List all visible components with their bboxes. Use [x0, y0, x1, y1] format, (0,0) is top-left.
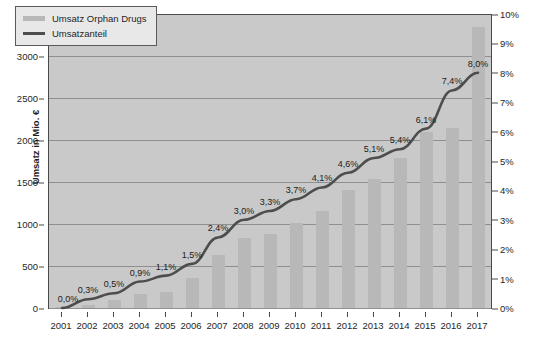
- x-tick-mark: [113, 312, 114, 317]
- tick-mark: [492, 220, 498, 221]
- y-tick-right-10: 10%: [500, 9, 519, 20]
- y-tick-right-2: 2%: [500, 244, 514, 255]
- line-series-umsatzanteil: [49, 14, 491, 308]
- bar-swatch-icon: [23, 16, 45, 21]
- x-tick-label-2002: 2002: [76, 320, 97, 331]
- data-label-2014: 5,4%: [390, 135, 411, 145]
- legend-item-umsatzanteil: Umsatzanteil: [23, 27, 147, 40]
- x-tick-label-2012: 2012: [336, 320, 357, 331]
- x-tick-mark: [165, 312, 166, 317]
- x-tick-label-2014: 2014: [388, 320, 409, 331]
- y-tick-right-0: 0%: [500, 303, 514, 314]
- data-label-2011: 4,1%: [312, 173, 333, 183]
- x-tick-mark: [243, 312, 244, 317]
- x-tick-label-2007: 2007: [206, 320, 227, 331]
- y-tick-right-3: 3%: [500, 214, 514, 225]
- x-tick-label-2004: 2004: [128, 320, 149, 331]
- tick-mark: [492, 249, 498, 250]
- gridline: [49, 308, 491, 309]
- x-tick-label-2010: 2010: [284, 320, 305, 331]
- line-swatch-icon: [23, 32, 45, 34]
- y-tick-left-3000: 3000: [17, 51, 38, 62]
- plot-area: 0,0%0,3%0,5%0,9%1,1%1,5%2,4%3,0%3,3%3,7%…: [48, 14, 492, 309]
- x-tick-mark: [217, 312, 218, 317]
- data-label-2012: 4,6%: [338, 159, 359, 169]
- data-label-2002: 0,3%: [78, 285, 99, 295]
- tick-mark: [39, 182, 44, 183]
- x-tick-label-2011: 2011: [311, 320, 331, 331]
- tick-mark: [492, 132, 498, 133]
- data-label-2010: 3,7%: [286, 185, 307, 195]
- data-label-2007: 2,4%: [208, 223, 229, 233]
- x-tick-label-2005: 2005: [154, 320, 175, 331]
- x-tick-label-2017: 2017: [466, 320, 487, 331]
- x-tick-label-2013: 2013: [362, 320, 383, 331]
- x-tick-label-2016: 2016: [440, 320, 461, 331]
- x-tick-mark: [399, 312, 400, 317]
- data-label-2008: 3,0%: [234, 206, 255, 216]
- legend-item-umsatz-orphan-drugs: Umsatz Orphan Drugs: [23, 12, 147, 25]
- tick-mark: [39, 140, 44, 141]
- data-label-2017: 8,0%: [468, 59, 489, 69]
- y-tick-left-1500: 1500: [17, 177, 38, 188]
- tick-mark: [492, 279, 498, 280]
- x-tick-mark: [321, 312, 322, 317]
- x-tick-label-2015: 2015: [414, 320, 435, 331]
- y-tick-right-1: 1%: [500, 273, 514, 284]
- y-tick-left-2000: 2000: [17, 135, 38, 146]
- legend-item-label: Umsatz Orphan Drugs: [52, 13, 147, 24]
- data-label-2003: 0,5%: [104, 279, 125, 289]
- data-label-2016: 7,4%: [442, 76, 463, 86]
- y-tick-left-500: 500: [22, 261, 38, 272]
- x-tick-mark: [61, 312, 62, 317]
- y-axis-right: 0%1%2%3%4%5%6%7%8%9%10%: [491, 0, 547, 294]
- y-tick-right-9: 9%: [500, 38, 514, 49]
- x-tick-mark: [451, 312, 452, 317]
- legend-item-label: Umsatzanteil: [52, 28, 107, 39]
- tick-mark: [492, 73, 498, 74]
- data-label-2006: 1,5%: [182, 250, 203, 260]
- chart-container: Umsatz in Mio. € Umsatzanteil in % 05001…: [0, 0, 550, 351]
- tick-mark: [492, 190, 498, 191]
- x-tick-mark: [139, 312, 140, 317]
- tick-mark: [39, 98, 44, 99]
- y-tick-left-0: 0: [33, 303, 38, 314]
- y-tick-right-7: 7%: [500, 97, 514, 108]
- data-label-2001: 0,0%: [58, 294, 79, 304]
- x-tick-mark: [191, 312, 192, 317]
- tick-mark: [492, 308, 498, 309]
- data-label-2005: 1,1%: [156, 262, 177, 272]
- x-axis: 2001200220032004200520062007200820092010…: [48, 312, 490, 332]
- tick-mark: [39, 56, 44, 57]
- x-tick-label-2003: 2003: [102, 320, 123, 331]
- x-tick-mark: [477, 312, 478, 317]
- x-tick-label-2009: 2009: [258, 320, 279, 331]
- x-tick-mark: [347, 312, 348, 317]
- tick-mark: [39, 224, 44, 225]
- x-tick-mark: [373, 312, 374, 317]
- data-label-2004: 0,9%: [130, 268, 151, 278]
- y-tick-left-2500: 2500: [17, 93, 38, 104]
- y-tick-right-8: 8%: [500, 67, 514, 78]
- y-tick-right-5: 5%: [500, 156, 514, 167]
- tick-mark: [39, 266, 44, 267]
- data-label-2015: 6,1%: [416, 115, 437, 125]
- data-label-2009: 3,3%: [260, 197, 281, 207]
- x-tick-label-2008: 2008: [232, 320, 253, 331]
- tick-mark: [492, 161, 498, 162]
- x-tick-label-2006: 2006: [180, 320, 201, 331]
- y-tick-right-4: 4%: [500, 185, 514, 196]
- x-tick-mark: [425, 312, 426, 317]
- tick-mark: [492, 43, 498, 44]
- x-tick-label-2001: 2001: [50, 320, 71, 331]
- y-tick-right-6: 6%: [500, 126, 514, 137]
- tick-mark: [492, 14, 498, 15]
- data-label-2013: 5,1%: [364, 144, 385, 154]
- x-tick-mark: [269, 312, 270, 317]
- tick-mark: [492, 102, 498, 103]
- x-tick-mark: [295, 312, 296, 317]
- y-tick-left-1000: 1000: [17, 219, 38, 230]
- x-tick-mark: [87, 312, 88, 317]
- chart-legend: Umsatz Orphan Drugs Umsatzanteil: [15, 6, 157, 46]
- tick-mark: [39, 308, 44, 309]
